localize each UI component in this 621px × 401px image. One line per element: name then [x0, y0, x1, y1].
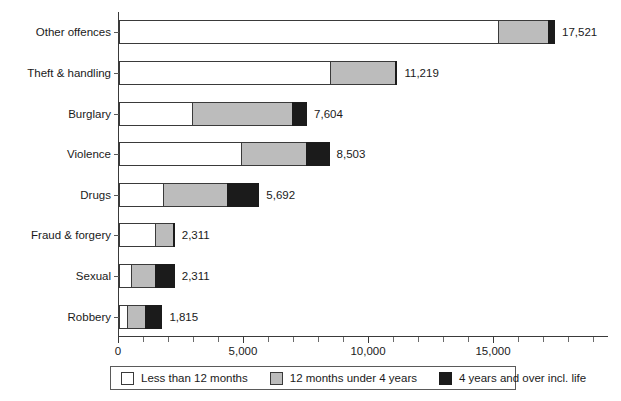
category-label-text: Burglary: [68, 108, 111, 120]
category-label-text: Fraud & forgery: [31, 229, 111, 241]
bar-value-label: 11,219: [399, 61, 438, 85]
x-axis-major-tick: [118, 337, 119, 343]
bar-segment-1: [119, 223, 156, 247]
x-axis-minor-tick: [293, 337, 294, 342]
stacked-bar: [119, 142, 330, 166]
x-axis-label: 15,000: [475, 345, 510, 357]
plot-area: Other offences17,521Theft & handling11,2…: [118, 12, 608, 337]
legend-label: 4 years and over incl. life: [459, 372, 586, 384]
x-axis-minor-tick: [418, 337, 419, 342]
stacked-bar: [119, 183, 259, 207]
stacked-bar: [119, 61, 397, 85]
legend-item[interactable]: 4 years and over incl. life: [439, 372, 586, 385]
legend-swatch-icon: [270, 372, 283, 385]
bar-value-label: 2,311: [177, 264, 210, 288]
stacked-bar-chart: Other offences17,521Theft & handling11,2…: [0, 0, 621, 401]
bar-value-label: 2,311: [177, 223, 210, 247]
chart-row: Fraud & forgery2,311: [119, 215, 608, 256]
legend-swatch-icon: [439, 372, 452, 385]
chart-row: Robbery1,815: [119, 296, 608, 337]
bar-segment-3: [145, 305, 162, 329]
x-axis-minor-tick: [318, 337, 319, 342]
x-axis-minor-tick: [518, 337, 519, 342]
x-axis-minor-tick: [393, 337, 394, 342]
bar-segment-3: [292, 102, 307, 126]
stacked-bar: [119, 20, 555, 44]
bar-value-label: 8,503: [332, 142, 366, 166]
chart-row: Other offences17,521: [119, 12, 608, 53]
bar-segment-2: [192, 102, 293, 126]
bar-segment-1: [119, 183, 164, 207]
x-axis-minor-tick: [443, 337, 444, 342]
bar-segment-3: [395, 61, 397, 85]
chart-row: Theft & handling11,219: [119, 53, 608, 94]
category-label: Burglary: [1, 93, 111, 134]
chart-row: Drugs5,692: [119, 175, 608, 216]
x-axis-minor-tick: [168, 337, 169, 342]
x-axis-ticks: [118, 337, 608, 343]
bar-segment-2: [163, 183, 228, 207]
category-label: Drugs: [1, 175, 111, 216]
x-axis-major-tick: [368, 337, 369, 343]
bar-segment-1: [119, 102, 193, 126]
x-axis-minor-tick: [343, 337, 344, 342]
x-axis-minor-tick: [543, 337, 544, 342]
x-axis-minor-tick: [143, 337, 144, 342]
x-axis-minor-tick: [193, 337, 194, 342]
x-axis-major-tick: [243, 337, 244, 343]
legend-swatch-icon: [121, 372, 134, 385]
bar-segment-1: [119, 142, 242, 166]
bar-segment-3: [155, 264, 175, 288]
chart-row: Burglary7,604: [119, 93, 608, 134]
chart-legend: Less than 12 months12 months under 4 yea…: [110, 366, 516, 390]
bar-value-label: 17,521: [557, 20, 597, 44]
category-label: Robbery: [1, 296, 111, 337]
stacked-bar: [119, 264, 175, 288]
bar-segment-3: [173, 223, 175, 247]
x-axis-major-tick: [493, 337, 494, 343]
bar-segment-1: [119, 61, 331, 85]
x-axis-tick-labels: 05,00010,00015,000: [0, 345, 621, 361]
x-axis-minor-tick: [218, 337, 219, 342]
legend-item[interactable]: 12 months under 4 years: [270, 372, 417, 385]
bar-segment-1: [119, 20, 499, 44]
x-axis-label: 10,000: [350, 345, 385, 357]
category-label-text: Other offences: [36, 26, 111, 38]
bar-segment-2: [155, 223, 174, 247]
category-label-text: Robbery: [68, 311, 111, 323]
category-label: Other offences: [1, 12, 111, 53]
stacked-bar: [119, 223, 175, 247]
category-label: Sexual: [1, 256, 111, 297]
bar-value-label: 7,604: [309, 102, 343, 126]
category-label-text: Violence: [67, 148, 111, 160]
bar-segment-2: [498, 20, 549, 44]
category-label: Violence: [1, 134, 111, 175]
bar-segment-2: [330, 61, 396, 85]
chart-row: Violence8,503: [119, 134, 608, 175]
legend-label: Less than 12 months: [141, 372, 248, 384]
stacked-bar: [119, 102, 307, 126]
category-label: Fraud & forgery: [1, 215, 111, 256]
bar-value-label: 1,815: [164, 305, 198, 329]
x-axis-label: 5,000: [229, 345, 258, 357]
x-axis-minor-tick: [568, 337, 569, 342]
bar-segment-3: [227, 183, 259, 207]
x-axis-label: 0: [115, 345, 121, 357]
legend-label: 12 months under 4 years: [290, 372, 417, 384]
legend-item[interactable]: Less than 12 months: [121, 372, 248, 385]
bar-segment-2: [127, 305, 146, 329]
bar-segment-3: [548, 20, 555, 44]
x-axis-minor-tick: [468, 337, 469, 342]
chart-row: Sexual2,311: [119, 256, 608, 297]
x-axis-minor-tick: [268, 337, 269, 342]
category-label: Theft & handling: [1, 53, 111, 94]
category-label-text: Theft & handling: [27, 67, 111, 79]
category-label-text: Sexual: [76, 270, 111, 282]
stacked-bar: [119, 305, 162, 329]
bar-segment-2: [241, 142, 307, 166]
bar-value-label: 5,692: [261, 183, 295, 207]
x-axis-minor-tick: [593, 337, 594, 342]
category-label-text: Drugs: [80, 189, 111, 201]
bar-segment-2: [131, 264, 156, 288]
bar-segment-3: [306, 142, 330, 166]
